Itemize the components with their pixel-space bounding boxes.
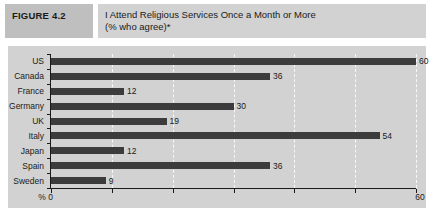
x-axis-tick: [112, 189, 113, 193]
figure-header: FIGURE 4.2 I Attend Religious Services O…: [5, 4, 426, 38]
plot-area: 60361230195412369: [50, 54, 416, 189]
y-axis-tick: [47, 158, 51, 159]
x-axis-tick: [355, 189, 356, 193]
category-label: France: [8, 87, 44, 96]
gridline: [294, 54, 295, 188]
category-label: UK: [8, 117, 44, 126]
gridline: [355, 54, 356, 188]
bar-value-label: 19: [170, 117, 179, 126]
category-label: Italy: [8, 132, 44, 141]
bar: [51, 73, 270, 80]
figure-title-line1: I Attend Religious Services Once a Month…: [105, 9, 418, 21]
x-axis-tick: [173, 189, 174, 193]
bar-value-label: 36: [273, 161, 282, 170]
bar: [51, 118, 167, 125]
bar: [51, 58, 416, 65]
y-axis-tick: [47, 54, 51, 55]
bar-value-label: 36: [273, 72, 282, 81]
bar-value-label: 54: [383, 132, 392, 141]
bar: [51, 162, 270, 169]
category-labels: USCanadaFranceGermanyUKItalyJapanSpainSw…: [8, 54, 47, 188]
bar: [51, 147, 124, 154]
category-label: Spain: [8, 161, 44, 170]
bar: [51, 103, 234, 110]
bar-value-label: 12: [127, 147, 136, 156]
y-axis-tick: [47, 128, 51, 129]
figure-number-label: FIGURE 4.2: [5, 4, 93, 38]
bar: [51, 177, 106, 184]
gridline: [416, 54, 417, 188]
x-axis-tick: [234, 189, 235, 193]
category-label: Canada: [8, 72, 44, 81]
bar-value-label: 12: [127, 87, 136, 96]
category-label: Japan: [8, 147, 44, 156]
y-axis-tick: [47, 173, 51, 174]
figure-title: I Attend Religious Services Once a Month…: [98, 4, 426, 38]
category-label: US: [8, 57, 44, 66]
bar-value-label: 9: [109, 176, 114, 185]
bar: [51, 132, 380, 139]
x-axis-tick: [294, 189, 295, 193]
bar-value-label: 60: [419, 57, 428, 66]
chart-panel: USCanadaFranceGermanyUKItalyJapanSpainSw…: [8, 46, 426, 208]
figure-title-line2: (% who agree)*: [105, 21, 418, 33]
bar-value-label: 30: [237, 102, 246, 111]
y-axis-tick: [47, 84, 51, 85]
bar: [51, 88, 124, 95]
x-axis-origin-label: % 0: [28, 193, 53, 202]
y-axis-tick: [47, 69, 51, 70]
y-axis-tick: [47, 114, 51, 115]
y-axis-tick: [47, 99, 51, 100]
y-axis-tick: [47, 143, 51, 144]
x-axis-max-label: 60: [411, 193, 429, 202]
figure-page: { "figure": { "label": "FIGURE 4.2", "ti…: [0, 0, 432, 214]
category-label: Germany: [8, 102, 44, 111]
category-label: Sweden: [8, 176, 44, 185]
